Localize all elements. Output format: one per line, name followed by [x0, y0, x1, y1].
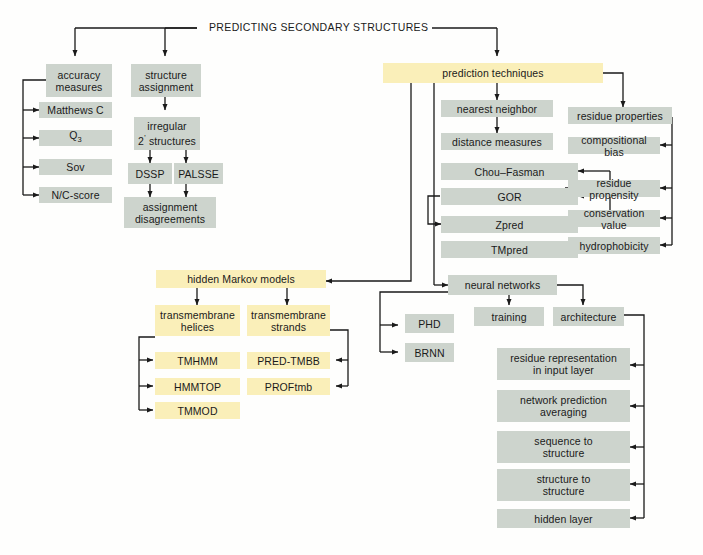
node-residue-properties[interactable]: residue properties	[568, 107, 672, 124]
transmembrane-helices-line2: helices	[181, 321, 214, 333]
architecture-label: architecture	[560, 311, 616, 323]
zpred-label: Zpred	[496, 219, 524, 231]
sov-label: Sov	[66, 161, 84, 173]
nearest-neighbor-label: nearest neighbor	[457, 103, 537, 115]
dssp-label: DSSP	[136, 168, 165, 180]
assignment-disagreements-line2: disagreements	[135, 213, 205, 225]
node-structure-to-structure[interactable]: structure to structure	[497, 469, 630, 501]
node-conservation-value[interactable]: conservation value	[568, 210, 660, 227]
node-matthews-c[interactable]: Matthews C	[39, 102, 112, 118]
node-residue-representation-in-input-layer[interactable]: residue representation in input layer	[497, 348, 630, 380]
node-transmembrane-helices[interactable]: transmembrane helices	[155, 305, 240, 336]
nc-score-label: N/C-score	[51, 189, 99, 201]
pred-tmbb-label: PRED-TMBB	[257, 355, 320, 367]
tmhmm-label: TMHMM	[177, 355, 218, 367]
node-dssp[interactable]: DSSP	[128, 163, 172, 184]
residue-propensity-label: residue propensity	[571, 177, 657, 201]
node-neural-networks[interactable]: neural networks	[448, 275, 557, 295]
structure-assignment-line2: assignment	[139, 81, 194, 93]
sequence-to-structure-line1: sequence to	[534, 435, 592, 447]
tmpred-label: TMpred	[491, 244, 528, 256]
accuracy-measures-line1: accuracy	[58, 69, 101, 81]
hidden-layer-label: hidden layer	[534, 513, 592, 525]
q3-label: Q3	[69, 129, 82, 146]
node-hidden-markov-models[interactable]: hidden Markov models	[156, 270, 326, 288]
chou-fasman-label: Chou–Fasman	[475, 166, 545, 178]
node-training[interactable]: training	[474, 307, 544, 326]
node-tmmod[interactable]: TMMOD	[155, 402, 240, 419]
network-prediction-line1: network prediction	[520, 394, 607, 406]
node-network-prediction-averaging[interactable]: network prediction averaging	[497, 390, 630, 422]
irregular-line1: irregular	[147, 120, 186, 132]
brnn-label: BRNN	[414, 347, 444, 359]
accuracy-measures-line2: measures	[56, 81, 103, 93]
residue-representation-line1: residue representation	[510, 352, 617, 364]
matthews-c-label: Matthews C	[47, 104, 103, 116]
node-nearest-neighbor[interactable]: nearest neighbor	[441, 100, 553, 117]
hidden-markov-models-label: hidden Markov models	[187, 273, 295, 285]
node-structure-assignment[interactable]: structure assignment	[131, 64, 201, 97]
node-sov[interactable]: Sov	[39, 159, 112, 175]
residue-properties-label: residue properties	[577, 110, 663, 122]
transmembrane-strands-line1: transmembrane	[251, 309, 326, 321]
proftmb-label: PROFtmb	[265, 381, 312, 393]
hmmtop-label: HMMTOP	[174, 381, 221, 393]
assignment-disagreements-line1: assignment	[143, 201, 198, 213]
node-irregular-secondary-structures[interactable]: irregular 2’ structures	[134, 117, 200, 150]
structure-to-structure-line2: structure	[543, 485, 585, 497]
node-distance-measures[interactable]: distance measures	[441, 133, 553, 150]
node-brnn[interactable]: BRNN	[405, 343, 454, 362]
node-hydrophobicity[interactable]: hydrophobicity	[568, 237, 660, 254]
structure-assignment-line1: structure	[145, 69, 187, 81]
node-gor[interactable]: GOR	[441, 188, 578, 205]
node-residue-propensity[interactable]: residue propensity	[568, 180, 660, 197]
node-tmpred[interactable]: TMpred	[441, 241, 578, 258]
distance-measures-label: distance measures	[452, 136, 542, 148]
node-prediction-techniques[interactable]: prediction techniques	[383, 63, 603, 83]
node-assignment-disagreements[interactable]: assignment disagreements	[124, 197, 216, 228]
structure-to-structure-line1: structure to	[537, 473, 591, 485]
transmembrane-strands-line2: strands	[271, 321, 306, 333]
node-q3[interactable]: Q3	[39, 130, 112, 146]
node-hidden-layer[interactable]: hidden layer	[497, 509, 630, 528]
node-proftmb[interactable]: PROFtmb	[247, 378, 330, 395]
node-sequence-to-structure[interactable]: sequence to structure	[497, 431, 630, 463]
phd-label: PHD	[418, 318, 440, 330]
node-accuracy-measures[interactable]: accuracy measures	[46, 64, 112, 97]
gor-label: GOR	[497, 191, 521, 203]
prediction-techniques-label: prediction techniques	[442, 67, 543, 79]
node-chou-fasman[interactable]: Chou–Fasman	[441, 163, 578, 180]
tmmod-label: TMMOD	[177, 405, 217, 417]
diagram-title: PREDICTING SECONDARY STRUCTURES	[205, 21, 432, 33]
hydrophobicity-label: hydrophobicity	[579, 240, 648, 252]
node-pred-tmbb[interactable]: PRED-TMBB	[247, 352, 330, 369]
training-label: training	[491, 311, 526, 323]
conservation-value-label: conservation value	[571, 207, 657, 231]
node-palsse[interactable]: PALSSE	[174, 163, 223, 184]
compositional-bias-label: compositional bias	[571, 134, 657, 158]
node-transmembrane-strands[interactable]: transmembrane strands	[247, 305, 330, 336]
node-hmmtop[interactable]: HMMTOP	[155, 378, 240, 395]
diagram-canvas: PREDICTING SECONDARY STRUCTURES accuracy…	[0, 0, 703, 555]
node-nc-score[interactable]: N/C-score	[39, 187, 112, 203]
node-zpred[interactable]: Zpred	[441, 216, 578, 233]
residue-representation-line2: in input layer	[533, 364, 594, 376]
neural-networks-label: neural networks	[465, 279, 541, 291]
q3-subscript: 3	[78, 136, 82, 145]
node-compositional-bias[interactable]: compositional bias	[568, 137, 660, 154]
sequence-to-structure-line2: structure	[543, 447, 585, 459]
node-phd[interactable]: PHD	[405, 314, 454, 333]
palsse-label: PALSSE	[178, 168, 219, 180]
irregular-line2: 2’ structures	[138, 132, 196, 147]
network-prediction-line2: averaging	[540, 406, 587, 418]
node-architecture[interactable]: architecture	[553, 307, 624, 326]
transmembrane-helices-line1: transmembrane	[160, 309, 235, 321]
node-tmhmm[interactable]: TMHMM	[155, 352, 240, 369]
